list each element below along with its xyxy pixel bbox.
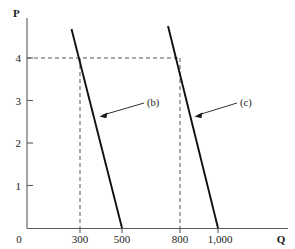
y-tick-label-2: 2: [16, 137, 22, 149]
x-axis-title: Q: [277, 233, 286, 245]
curve-label-b: (b): [147, 97, 160, 109]
origin-label: 0: [16, 233, 22, 245]
y-tick-label-1: 1: [16, 180, 22, 192]
annotation-arrow-c-head: [195, 113, 203, 119]
y-tick-label-4: 4: [16, 52, 22, 64]
x-tick-label-1000: 1,000: [208, 233, 233, 245]
annotation-arrow-b-head: [100, 113, 108, 119]
x-tick-label-800: 800: [172, 233, 189, 245]
y-tick-label-3: 3: [16, 95, 22, 107]
annotation-arrow-b-line: [103, 103, 144, 115]
y-axis-title: P: [13, 7, 20, 19]
curve-label-c: (c): [240, 97, 252, 109]
chart-canvas: P Q 4 3 2 1 0 300 500 800 1,000 (b) (c): [0, 0, 295, 249]
annotation-arrow-c-line: [198, 103, 237, 115]
x-tick-label-500: 500: [114, 233, 131, 245]
demand-curve-c: [168, 26, 218, 228]
demand-curve-chart: P Q 4 3 2 1 0 300 500 800 1,000 (b) (c): [0, 0, 295, 249]
x-tick-label-300: 300: [72, 233, 89, 245]
demand-curve-b: [72, 29, 123, 228]
